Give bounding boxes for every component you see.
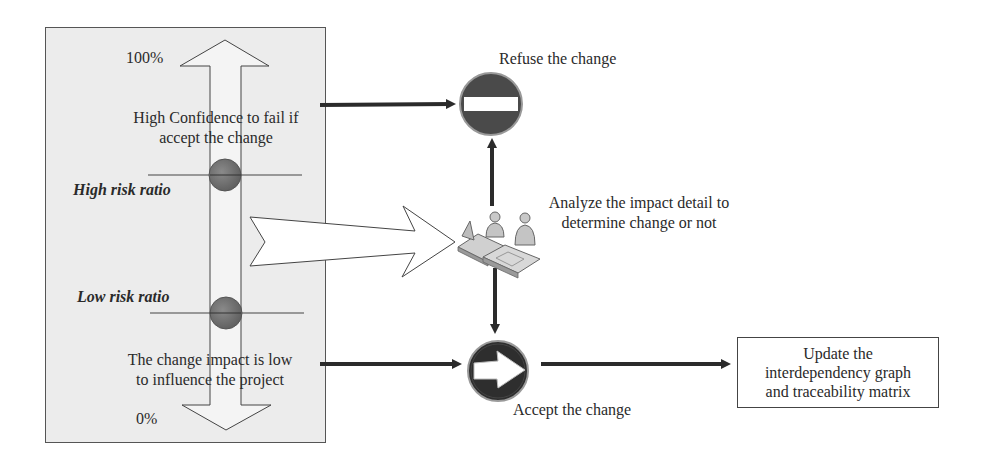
low-risk-ratio-label: Low risk ratio xyxy=(77,287,169,307)
update-line2: interdependency graph xyxy=(765,363,911,382)
update-graph-box: Update the interdependency graph and tra… xyxy=(737,337,939,408)
no-entry-sign-icon xyxy=(460,73,522,135)
evaluate-block-arrow xyxy=(250,206,455,277)
analyze-impact-label: Analyze the impact detail to determine c… xyxy=(536,193,742,233)
high-risk-ratio-label: High risk ratio xyxy=(73,180,171,200)
scale-bottom-label: 0% xyxy=(136,409,157,429)
low-impact-line2: to influence the project xyxy=(106,370,314,390)
low-impact-line1: The change impact is low xyxy=(106,350,314,370)
low-impact-text: The change impact is low to influence th… xyxy=(106,350,314,390)
accept-change-label: Accept the change xyxy=(513,400,631,420)
high-confidence-text: High Confidence to fail if accept the ch… xyxy=(113,108,319,148)
high-confidence-line1: High Confidence to fail if xyxy=(113,108,319,128)
arrow-to-refuse xyxy=(320,104,452,105)
meeting-people-icon xyxy=(458,212,540,278)
refuse-change-label: Refuse the change xyxy=(499,49,616,69)
update-line3: and traceability matrix xyxy=(765,382,911,401)
high-confidence-line2: accept the change xyxy=(113,128,319,148)
analyze-line1: Analyze the impact detail to xyxy=(536,193,742,213)
update-line1: Update the xyxy=(765,344,911,363)
right-arrow-sign-icon xyxy=(468,341,528,401)
analyze-line2: determine change or not xyxy=(536,213,742,233)
scale-top-label: 100% xyxy=(126,48,163,68)
